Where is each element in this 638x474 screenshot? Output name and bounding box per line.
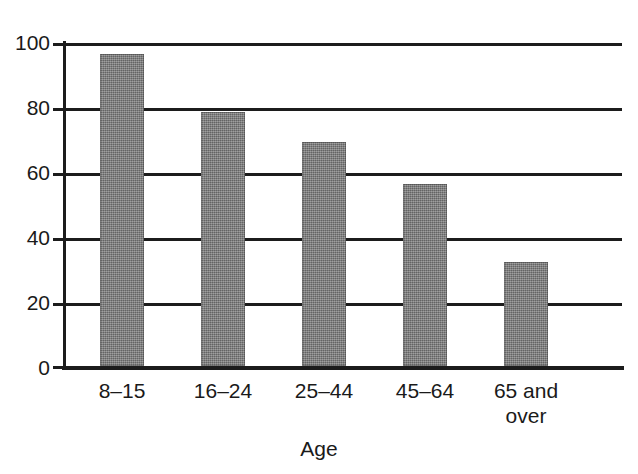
bar-65-and-over[interactable]	[504, 262, 548, 366]
plot-area	[66, 43, 622, 368]
y-tick-label-40: 40	[0, 227, 50, 248]
y-tick-mark-20	[53, 303, 64, 306]
gridline-100	[66, 43, 622, 46]
bar-16-24[interactable]	[201, 112, 245, 366]
gridline-80	[66, 108, 622, 111]
cropped-caption-fragment	[78, 0, 378, 3]
bar-8-15[interactable]	[100, 54, 144, 366]
y-tick-mark-0	[53, 366, 64, 369]
bar-25-44[interactable]	[302, 142, 346, 366]
y-tick-label-80: 80	[0, 97, 50, 118]
x-axis-title: Age	[0, 437, 638, 461]
y-tick-label-0: 0	[0, 357, 50, 378]
x-label-16-24: 16–24	[173, 378, 273, 403]
bar-45-64[interactable]	[403, 184, 447, 366]
y-tick-mark-40	[53, 238, 64, 241]
y-tick-mark-80	[53, 108, 64, 111]
bar-chart-figure: 100 80 60 40 20 0 8–15 16–24 25–44	[0, 0, 638, 474]
x-axis-category-labels: 8–15 16–24 25–44 45–64 65 and over	[66, 378, 622, 434]
y-tick-label-20: 20	[0, 292, 50, 313]
y-axis-line	[63, 41, 66, 370]
y-tick-label-100: 100	[0, 32, 50, 53]
x-axis-baseline	[62, 366, 624, 370]
x-label-45-64: 45–64	[375, 378, 475, 403]
y-tick-mark-60	[53, 173, 64, 176]
x-label-65-and-over: 65 and over	[476, 378, 576, 428]
x-label-8-15: 8–15	[72, 378, 172, 403]
x-label-25-44: 25–44	[274, 378, 374, 403]
y-tick-label-60: 60	[0, 162, 50, 183]
y-tick-mark-100	[53, 43, 64, 46]
y-axis-tick-labels: 100 80 60 40 20 0	[0, 43, 50, 368]
